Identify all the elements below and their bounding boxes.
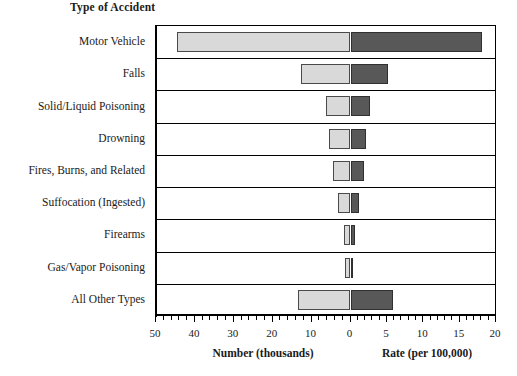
axis-tick-minor	[437, 315, 438, 320]
axis-tick-minor	[209, 315, 210, 320]
axis-tick-minor	[225, 315, 226, 320]
axis-tick-major	[495, 315, 496, 322]
zero-baseline	[156, 25, 157, 317]
row-divider	[156, 219, 495, 220]
left-axis-caption: Number (thousands)	[173, 347, 353, 359]
axis-tick-minor	[287, 315, 288, 320]
bar-row	[156, 26, 495, 58]
bar-number	[298, 290, 351, 310]
bar-number	[326, 96, 351, 116]
axis-tick-minor	[357, 315, 358, 320]
axis-tick-minor	[466, 315, 467, 320]
axis-tick-minor	[241, 315, 242, 320]
axis-tick-minor	[342, 315, 343, 320]
axis-tick-label: 20	[483, 327, 507, 339]
category-label: Drowning	[98, 132, 145, 144]
axis-tick-major	[386, 315, 387, 322]
axis-tick-minor	[202, 315, 203, 320]
axis-tick-minor	[256, 315, 257, 320]
row-divider	[156, 284, 495, 285]
category-axis-labels: Motor VehicleFallsSolid/Liquid Poisoning…	[0, 25, 150, 315]
axis-tick-major	[422, 315, 423, 322]
axis-tick-minor	[364, 315, 365, 320]
axis-tick-minor	[163, 315, 164, 320]
axis-tick-minor	[473, 315, 474, 320]
axis-tick-label: 10	[410, 327, 434, 339]
axis-tick-minor	[408, 315, 409, 320]
axis-tick-minor	[318, 315, 319, 320]
axis-tick-label: 50	[143, 327, 167, 339]
axis-tick-minor	[171, 315, 172, 320]
bar-row	[156, 155, 495, 187]
axis-tick-minor	[400, 315, 401, 320]
bar-row	[156, 90, 495, 122]
bar-row	[156, 219, 495, 251]
row-divider	[156, 90, 495, 91]
axis-tick-label: 0	[338, 327, 362, 339]
axis-tick-minor	[217, 315, 218, 320]
bar-rate	[351, 193, 360, 213]
axis-tick-minor	[480, 315, 481, 320]
category-label: Firearms	[104, 228, 145, 240]
plot-area	[155, 25, 496, 315]
axis-tick-major	[233, 315, 234, 322]
row-divider	[156, 187, 495, 188]
axis-tick-minor	[451, 315, 452, 320]
category-label: Suffocation (Ingested)	[42, 196, 145, 208]
axis-tick-label: 5	[374, 327, 398, 339]
axis-tick-major	[194, 315, 195, 322]
row-divider	[156, 252, 495, 253]
value-axis: 504030201005101520 Number (thousands) Ra…	[155, 315, 496, 376]
chart-title: Type of Accident	[70, 1, 155, 13]
bar-rate	[351, 32, 483, 52]
bar-number	[177, 32, 350, 52]
category-label: Falls	[123, 67, 145, 79]
axis-tick-major	[272, 315, 273, 322]
axis-tick-major	[311, 315, 312, 322]
axis-tick-minor	[279, 315, 280, 320]
bar-number	[344, 225, 351, 245]
axis-tick-minor	[295, 315, 296, 320]
axis-tick-minor	[415, 315, 416, 320]
bar-rate	[351, 161, 365, 181]
axis-tick-minor	[264, 315, 265, 320]
bar-rate	[351, 129, 366, 149]
axis-tick-major	[459, 315, 460, 322]
axis-tick-label: 20	[260, 327, 284, 339]
axis-tick-label: 40	[182, 327, 206, 339]
axis-tick-minor	[334, 315, 335, 320]
axis-tick-minor	[393, 315, 394, 320]
category-label: Solid/Liquid Poisoning	[38, 100, 145, 112]
bar-number	[301, 64, 351, 84]
category-label: Motor Vehicle	[79, 35, 145, 47]
axis-tick-minor	[379, 315, 380, 320]
bar-rate	[351, 258, 354, 278]
bar-rate	[351, 96, 371, 116]
row-divider	[156, 123, 495, 124]
right-axis-caption: Rate (per 100,000)	[337, 347, 517, 359]
bar-number	[329, 129, 350, 149]
bar-row	[156, 123, 495, 155]
bar-row	[156, 284, 495, 316]
axis-tick-minor	[444, 315, 445, 320]
axis-tick-major	[350, 315, 351, 322]
category-label: Fires, Burns, and Related	[28, 164, 145, 176]
bar-rate	[351, 64, 389, 84]
bar-rate	[351, 290, 394, 310]
axis-tick-minor	[430, 315, 431, 320]
axis-tick-minor	[178, 315, 179, 320]
axis-tick-minor	[488, 315, 489, 320]
bar-row	[156, 187, 495, 219]
bar-row	[156, 252, 495, 284]
axis-tick-minor	[248, 315, 249, 320]
bar-row	[156, 58, 495, 90]
category-label: Gas/Vapor Poisoning	[48, 261, 145, 273]
axis-tick-minor	[326, 315, 327, 320]
axis-tick-label: 15	[447, 327, 471, 339]
bar-number	[338, 193, 350, 213]
row-divider	[156, 58, 495, 59]
axis-tick-label: 10	[299, 327, 323, 339]
bar-number	[333, 161, 351, 181]
category-label: All Other Types	[71, 293, 145, 305]
row-divider	[156, 155, 495, 156]
